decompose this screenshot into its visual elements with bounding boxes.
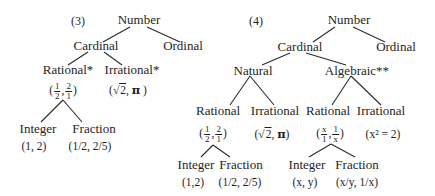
natural-rational-example: (12,21) [199, 125, 227, 144]
integer-example: (1, 2) [22, 140, 47, 152]
node-algebraic: Algebraic** [325, 64, 389, 78]
fraction-example: (1/2, 2/5) [69, 140, 112, 152]
node-natural-rational: Rational [196, 104, 240, 118]
fraction-b: 21 [65, 82, 72, 101]
node-algebraic-fraction: Fraction [335, 158, 378, 172]
node-algebraic-integer: Integer [289, 158, 326, 172]
fraction-a: 12 [54, 82, 61, 101]
rational-example: (12,21) [49, 82, 77, 101]
node-algebraic-rational: Rational [306, 104, 350, 118]
node-cardinal: Cardinal [278, 40, 323, 54]
natural-integer-example: (1,2) [182, 176, 204, 188]
node-algebraic-irrational: Irrational [357, 104, 405, 118]
node-natural-fraction: Fraction [219, 158, 262, 172]
node-irrational: Irrational* [105, 63, 160, 77]
algebraic-fraction-example: (x/y, 1/x) [336, 176, 378, 188]
node-rational: Rational* [43, 63, 94, 77]
diagram-4-label: (4) [249, 14, 263, 28]
node-number: Number [118, 13, 161, 27]
node-ordinal: Ordinal [163, 39, 203, 53]
node-natural-integer: Integer [178, 158, 215, 172]
node-ordinal: Ordinal [376, 40, 416, 54]
pi-symbol: π [277, 127, 285, 141]
diagram-3-label: (3) [71, 14, 85, 28]
node-natural-irrational: Irrational [251, 104, 299, 118]
pi-symbol: π [132, 83, 140, 97]
natural-fraction-example: (1/2, 2/5) [219, 176, 262, 188]
algebraic-integer-example: (x, y) [293, 176, 318, 188]
node-fraction: Fraction [72, 122, 115, 136]
algebraic-rational-example: (x1,1x) [316, 125, 344, 144]
node-integer: Integer [20, 122, 57, 136]
irrational-example: (√2, π ) [109, 84, 147, 96]
natural-irrational-example: (√2, π) [255, 128, 290, 140]
node-number: Number [328, 13, 371, 27]
node-natural: Natural [234, 64, 273, 78]
algebraic-irrational-example: (x² = 2) [366, 128, 401, 140]
node-cardinal: Cardinal [74, 39, 119, 53]
